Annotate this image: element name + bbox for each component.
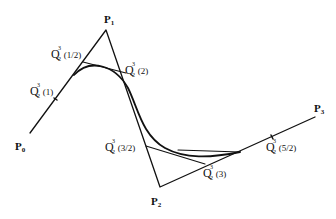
label-q-3: Q32(3) <box>203 167 226 179</box>
label-q-2: Q32(2) <box>125 64 148 76</box>
label-p0: P0 <box>15 141 25 154</box>
label-p3: P3 <box>314 103 324 116</box>
chord-bottom-right <box>178 150 240 152</box>
bezier-curve <box>74 66 240 157</box>
label-q-1-2: Q32(1/2) <box>51 48 81 60</box>
chord-bottom-left <box>146 146 205 164</box>
label-q-5-2: Q32(5/2) <box>266 141 296 153</box>
label-p1: P1 <box>104 14 114 27</box>
bezier-diagram <box>0 0 336 219</box>
label-q-3-2: Q32(3/2) <box>105 141 135 153</box>
label-p2: P2 <box>151 196 161 209</box>
label-q-1: Q32(1) <box>30 85 53 97</box>
